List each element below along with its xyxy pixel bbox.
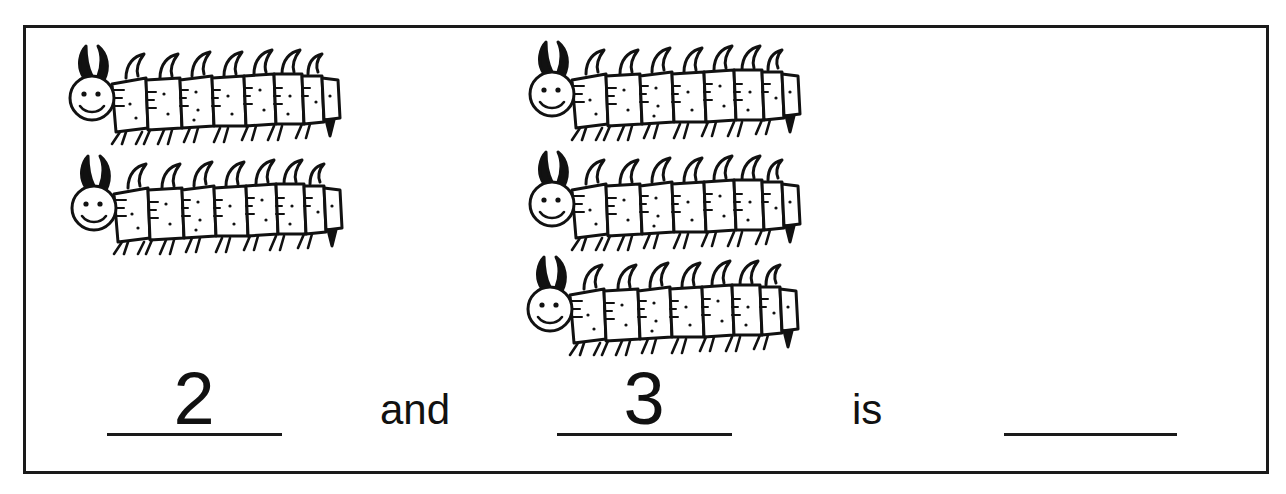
- first-value-blank: [107, 433, 282, 436]
- caterpillar-icon: [526, 255, 800, 357]
- second-value: 3: [557, 362, 731, 436]
- caterpillar-icon: [528, 150, 802, 252]
- caterpillar-icon: [68, 44, 342, 146]
- first-value: 2: [107, 362, 281, 436]
- answer-blank[interactable]: [1004, 433, 1177, 436]
- connector-word: and: [380, 388, 450, 432]
- result-label: is: [852, 388, 882, 432]
- caterpillar-icon: [528, 40, 802, 142]
- second-value-blank: [557, 433, 732, 436]
- caterpillar-icon: [70, 154, 344, 256]
